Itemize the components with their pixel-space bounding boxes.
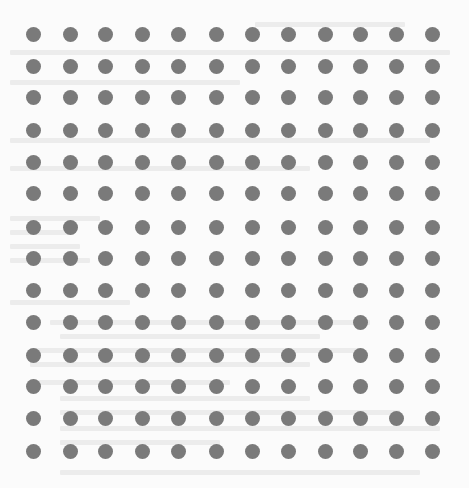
grid-dot bbox=[98, 90, 113, 105]
grid-dot bbox=[98, 379, 113, 394]
grid-dot bbox=[171, 315, 186, 330]
grid-dot bbox=[171, 444, 186, 459]
grid-dot bbox=[209, 379, 224, 394]
grid-dot bbox=[353, 220, 368, 235]
grid-dot bbox=[353, 123, 368, 138]
grid-dot bbox=[171, 220, 186, 235]
grid-dot bbox=[318, 283, 333, 298]
grid-dot bbox=[245, 444, 260, 459]
grid-dot bbox=[281, 411, 296, 426]
grid-dot bbox=[209, 123, 224, 138]
grid-dot bbox=[209, 220, 224, 235]
grid-dot bbox=[425, 59, 440, 74]
grid-dot bbox=[389, 348, 404, 363]
grid-dot bbox=[171, 411, 186, 426]
grid-dot bbox=[26, 90, 41, 105]
grid-dot bbox=[318, 220, 333, 235]
grid-dot bbox=[389, 27, 404, 42]
grid-dot bbox=[135, 123, 150, 138]
grid-dot bbox=[171, 59, 186, 74]
grid-dot bbox=[425, 379, 440, 394]
grid-dot bbox=[171, 251, 186, 266]
grid-dot bbox=[353, 315, 368, 330]
grid-dot bbox=[389, 220, 404, 235]
grid-dot bbox=[63, 27, 78, 42]
grid-dot bbox=[245, 123, 260, 138]
grid-dot bbox=[353, 444, 368, 459]
grid-dot bbox=[63, 155, 78, 170]
grid-dot bbox=[425, 123, 440, 138]
grid-dot bbox=[353, 348, 368, 363]
grid-dot bbox=[318, 27, 333, 42]
grid-dot bbox=[389, 315, 404, 330]
grid-dot bbox=[209, 90, 224, 105]
grid-dot bbox=[353, 27, 368, 42]
grid-dot bbox=[171, 348, 186, 363]
grid-dot bbox=[209, 283, 224, 298]
grid-dot bbox=[281, 155, 296, 170]
grid-dot bbox=[98, 411, 113, 426]
grid-dot bbox=[63, 411, 78, 426]
grid-dot bbox=[63, 444, 78, 459]
grid-dot bbox=[26, 27, 41, 42]
grid-dot bbox=[63, 90, 78, 105]
grid-dot bbox=[281, 186, 296, 201]
grid-dot bbox=[26, 411, 41, 426]
grid-dot bbox=[245, 59, 260, 74]
grid-dot bbox=[389, 251, 404, 266]
grid-dot bbox=[245, 220, 260, 235]
grid-dot bbox=[353, 59, 368, 74]
grid-dot bbox=[98, 27, 113, 42]
grid-dot bbox=[318, 59, 333, 74]
grid-dot bbox=[281, 251, 296, 266]
grid-dot bbox=[245, 186, 260, 201]
grid-dot bbox=[281, 283, 296, 298]
grid-dot bbox=[318, 411, 333, 426]
grid-dot bbox=[389, 186, 404, 201]
grid-dot bbox=[425, 283, 440, 298]
grid-dot bbox=[98, 220, 113, 235]
grid-dot bbox=[26, 251, 41, 266]
grid-dot bbox=[135, 444, 150, 459]
grid-dot bbox=[63, 59, 78, 74]
grid-dot bbox=[63, 283, 78, 298]
grid-dot bbox=[63, 186, 78, 201]
grid-dot bbox=[209, 251, 224, 266]
grid-dot bbox=[26, 59, 41, 74]
grid-dot bbox=[353, 90, 368, 105]
grid-dot bbox=[26, 186, 41, 201]
grid-dot bbox=[209, 444, 224, 459]
grid-dot bbox=[318, 348, 333, 363]
grid-dot bbox=[245, 348, 260, 363]
grid-dot bbox=[318, 251, 333, 266]
grid-dot bbox=[245, 315, 260, 330]
grid-dot bbox=[245, 379, 260, 394]
grid-dot bbox=[425, 251, 440, 266]
grid-dot bbox=[245, 251, 260, 266]
grid-dot bbox=[318, 155, 333, 170]
grid-dot bbox=[245, 283, 260, 298]
grid-dot bbox=[389, 444, 404, 459]
grid-dot bbox=[245, 27, 260, 42]
grid-dot bbox=[171, 379, 186, 394]
grid-dot bbox=[425, 444, 440, 459]
grid-dot bbox=[26, 155, 41, 170]
grid-dot bbox=[353, 155, 368, 170]
grid-dot bbox=[318, 379, 333, 394]
grid-dot bbox=[26, 348, 41, 363]
grid-dot bbox=[63, 251, 78, 266]
grid-dot bbox=[98, 251, 113, 266]
grid-dot bbox=[425, 155, 440, 170]
grid-dot bbox=[245, 411, 260, 426]
grid-dot bbox=[63, 379, 78, 394]
grid-dot bbox=[135, 27, 150, 42]
grid-dot bbox=[318, 90, 333, 105]
grid-dot bbox=[135, 251, 150, 266]
grid-dot bbox=[318, 123, 333, 138]
grid-dot bbox=[98, 315, 113, 330]
grid-dot bbox=[63, 315, 78, 330]
grid-dot bbox=[281, 379, 296, 394]
grid-dot bbox=[209, 186, 224, 201]
grid-dot bbox=[209, 411, 224, 426]
grid-dot bbox=[98, 59, 113, 74]
